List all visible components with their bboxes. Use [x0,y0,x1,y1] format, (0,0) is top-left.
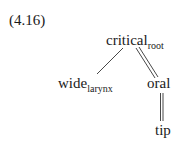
example-number: (4.16) [9,13,45,28]
node-wide-label: wide [58,75,87,91]
node-wide: widelarynx [58,76,113,92]
branch-oral-to-tip-double [161,93,164,121]
branch-root-to-wide [97,48,123,74]
node-root-subscript: root [148,40,164,51]
node-root: criticalroot [106,33,164,49]
node-oral: oral [147,76,170,91]
node-root-label: critical [106,32,148,48]
node-tip: tip [155,123,171,138]
node-wide-subscript: larynx [87,83,113,94]
branch-root-to-oral-double [136,47,158,78]
